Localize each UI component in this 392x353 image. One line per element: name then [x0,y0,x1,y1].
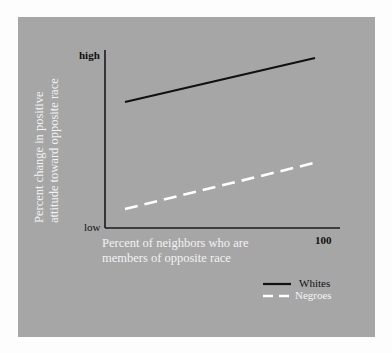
y-axis-label: Percent change in positive attitude towa… [32,43,62,223]
legend-label-negroes: Negroes [295,289,332,301]
legend-label-whites: Whites [299,277,330,289]
x-axis-label-line1: Percent of neighbors who are [102,236,302,251]
y-axis-label-line2: attitude toward opposite race [47,43,62,223]
x-tick-100: 100 [315,234,332,246]
series-negroes-line [125,163,314,209]
series-whites-line [125,58,315,102]
x-axis-label: Percent of neighbors who are members of … [102,236,302,266]
x-axis-label-line2: members of opposite race [102,251,302,266]
y-tick-high: high [79,49,100,61]
y-axis-label-line1: Percent change in positive [32,43,47,223]
y-tick-low: low [84,221,101,233]
